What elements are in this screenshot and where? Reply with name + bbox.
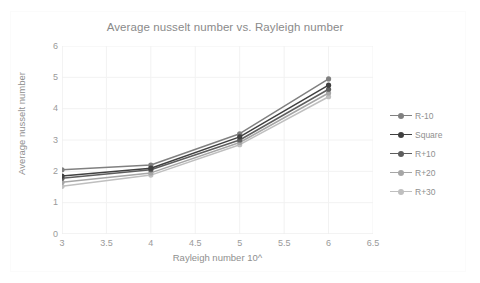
x-tick-label: 4	[136, 238, 166, 248]
legend-dot-icon	[398, 151, 404, 157]
y-tick-label: 4	[44, 104, 58, 113]
legend-marker-icon	[390, 111, 412, 121]
chart-title: Average nusselt number vs. Rayleigh numb…	[60, 21, 390, 33]
legend-dot-icon	[398, 113, 404, 119]
y-tick-label: 3	[44, 136, 58, 145]
plot-area	[62, 46, 373, 234]
legend-item[interactable]: Square	[390, 125, 460, 144]
x-axis-label: Rayleigh number 10^	[62, 252, 373, 263]
y-axis-label: Average nusselt number	[16, 68, 27, 180]
legend-marker-icon	[390, 187, 412, 197]
legend-marker-icon	[390, 168, 412, 178]
y-tick-label: 1	[44, 198, 58, 207]
legend-item-label: R+20	[415, 168, 436, 178]
x-tick-label: 3	[47, 238, 77, 248]
gridlines	[62, 46, 373, 234]
y-tick-label: 5	[44, 73, 58, 82]
series-r-20	[62, 90, 331, 184]
legend-dot-icon	[398, 132, 404, 138]
legend-item-label: R+10	[415, 149, 436, 159]
chart-legend: R-10SquareR+10R+20R+30	[390, 106, 460, 201]
legend-item[interactable]: R+20	[390, 163, 460, 182]
legend-item[interactable]: R+30	[390, 182, 460, 201]
x-tick-label: 6.5	[358, 238, 388, 248]
y-tick-label: 2	[44, 167, 58, 176]
plot-svg	[62, 46, 373, 234]
x-tick-label: 3.5	[91, 238, 121, 248]
x-axis-tick-labels: 33.544.555.566.5	[62, 238, 373, 252]
x-tick-label: 5.5	[269, 238, 299, 248]
x-tick-label: 4.5	[180, 238, 210, 248]
chart-container: Average nusselt number vs. Rayleigh numb…	[0, 0, 480, 283]
legend-item[interactable]: R-10	[390, 106, 460, 125]
series-square	[62, 83, 331, 179]
legend-item-label: Square	[415, 130, 442, 140]
y-axis-tick-labels: 0123456	[42, 46, 58, 234]
legend-marker-icon	[390, 149, 412, 159]
legend-dot-icon	[398, 170, 404, 176]
legend-item[interactable]: R+10	[390, 144, 460, 163]
x-tick-label: 6	[314, 238, 344, 248]
series-r-10	[62, 87, 331, 181]
y-tick-label: 6	[44, 42, 58, 51]
legend-item-label: R+30	[415, 187, 436, 197]
legend-dot-icon	[398, 189, 404, 195]
legend-item-label: R-10	[415, 111, 433, 121]
x-tick-label: 5	[225, 238, 255, 248]
legend-marker-icon	[390, 130, 412, 140]
